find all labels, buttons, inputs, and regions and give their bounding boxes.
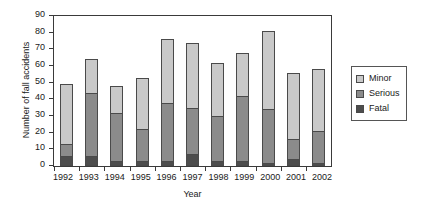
y-tick-label: 70 (35, 42, 45, 53)
bar-slot-2002 (306, 16, 331, 166)
x-tick-mark (155, 167, 156, 171)
bar-segment-serious-1992[interactable] (60, 144, 73, 156)
bar-segment-fatal-2000[interactable] (262, 163, 275, 166)
bar-series-container (54, 16, 331, 166)
bar-segment-minor-1995[interactable] (136, 78, 149, 130)
x-tick-mark (230, 167, 231, 171)
x-tick-mark (130, 167, 131, 171)
bar-segment-minor-2001[interactable] (287, 73, 300, 140)
y-axis-ticks: 0102030405060708090 (0, 15, 53, 167)
bar-segment-serious-2001[interactable] (287, 139, 300, 159)
bar-slot-1994 (104, 16, 129, 166)
x-axis-label-1998: 1998 (205, 172, 231, 183)
x-tick-mark (205, 167, 206, 171)
bar-slot-2001 (281, 16, 306, 166)
stacked-bar-1993[interactable] (85, 59, 98, 166)
x-axis-label-1999: 1999 (231, 172, 257, 183)
bar-segment-fatal-1992[interactable] (60, 156, 73, 166)
x-axis-label-1995: 1995 (128, 172, 154, 183)
y-tick-label: 40 (35, 92, 45, 103)
bar-slot-1999 (230, 16, 255, 166)
legend-item-serious[interactable]: Serious (356, 86, 400, 101)
bar-slot-1992 (54, 16, 79, 166)
x-axis-label-1997: 1997 (180, 172, 206, 183)
x-axis-label-1992: 1992 (50, 172, 76, 183)
legend-item-minor[interactable]: Minor (356, 71, 400, 86)
bar-segment-serious-1998[interactable] (211, 116, 224, 161)
x-tick-mark (104, 167, 105, 171)
y-tick-label: 90 (35, 9, 45, 20)
y-tick-label: 20 (35, 126, 45, 137)
bar-segment-fatal-1993[interactable] (85, 156, 98, 166)
chart-legend: MinorSeriousFatal (351, 66, 407, 121)
bar-segment-serious-1993[interactable] (85, 93, 98, 156)
bar-segment-minor-1992[interactable] (60, 84, 73, 144)
bar-segment-fatal-1997[interactable] (186, 154, 199, 166)
bar-segment-fatal-1999[interactable] (236, 161, 249, 166)
bar-segment-fatal-2002[interactable] (312, 163, 325, 166)
y-tick-label: 80 (35, 26, 45, 37)
y-tick-label: 30 (35, 109, 45, 120)
legend-swatch-fatal-icon (356, 105, 364, 113)
stacked-bar-1999[interactable] (236, 53, 249, 166)
stacked-bar-1992[interactable] (60, 84, 73, 166)
x-axis-label-1994: 1994 (102, 172, 128, 183)
x-axis-labels: 1992199319941995199619971998199920002001… (50, 172, 335, 183)
legend-label: Fatal (369, 103, 389, 114)
x-tick-mark (306, 167, 307, 171)
stacked-bar-1997[interactable] (186, 43, 199, 166)
y-tick-label: 0 (40, 159, 45, 170)
x-tick-mark (54, 167, 55, 171)
legend-swatch-minor-icon (356, 75, 364, 83)
x-axis-title: Year (53, 189, 332, 199)
stacked-bar-1996[interactable] (161, 39, 174, 166)
legend-label: Minor (369, 73, 392, 84)
stacked-bar-2000[interactable] (262, 31, 275, 166)
stacked-bar-1998[interactable] (211, 63, 224, 166)
bar-segment-serious-1997[interactable] (186, 108, 199, 155)
bar-segment-minor-1998[interactable] (211, 63, 224, 116)
bar-segment-minor-1994[interactable] (110, 86, 123, 113)
bar-segment-serious-1995[interactable] (136, 129, 149, 161)
bar-segment-minor-2000[interactable] (262, 31, 275, 109)
bar-slot-1997 (180, 16, 205, 166)
y-tick-label: 50 (35, 76, 45, 87)
bar-segment-minor-1996[interactable] (161, 39, 174, 102)
bar-segment-serious-2002[interactable] (312, 131, 325, 163)
y-tick-label: 60 (35, 59, 45, 70)
bar-segment-fatal-1995[interactable] (136, 161, 149, 166)
fall-accidents-stacked-bar-chart: Number of fall accidents 010203040506070… (0, 0, 431, 209)
x-axis-label-2000: 2000 (257, 172, 283, 183)
bar-segment-minor-1997[interactable] (186, 43, 199, 108)
bar-segment-fatal-1996[interactable] (161, 161, 174, 166)
bar-segment-serious-1994[interactable] (110, 113, 123, 161)
legend-swatch-serious-icon (356, 90, 364, 98)
bar-slot-1998 (205, 16, 230, 166)
x-axis-label-2001: 2001 (283, 172, 309, 183)
x-axis-label-1993: 1993 (76, 172, 102, 183)
bar-segment-serious-1996[interactable] (161, 103, 174, 161)
bar-segment-minor-2002[interactable] (312, 69, 325, 131)
legend-item-fatal[interactable]: Fatal (356, 101, 400, 116)
legend-label: Serious (369, 88, 400, 99)
x-tick-mark (256, 167, 257, 171)
bar-slot-1995 (130, 16, 155, 166)
bar-segment-fatal-1998[interactable] (211, 161, 224, 166)
x-tick-mark (281, 167, 282, 171)
stacked-bar-2002[interactable] (312, 69, 325, 166)
bar-segment-minor-1999[interactable] (236, 53, 249, 96)
bar-segment-serious-2000[interactable] (262, 109, 275, 162)
bar-slot-2000 (256, 16, 281, 166)
x-tick-mark (79, 167, 80, 171)
stacked-bar-2001[interactable] (287, 73, 300, 166)
stacked-bar-1995[interactable] (136, 78, 149, 166)
bar-segment-minor-1993[interactable] (85, 59, 98, 92)
bar-segment-fatal-2001[interactable] (287, 159, 300, 166)
bar-slot-1996 (155, 16, 180, 166)
stacked-bar-1994[interactable] (110, 86, 123, 166)
x-axis-label-2002: 2002 (309, 172, 335, 183)
bar-segment-serious-1999[interactable] (236, 96, 249, 161)
y-tick-label: 10 (35, 142, 45, 153)
x-axis-label-1996: 1996 (154, 172, 180, 183)
bar-segment-fatal-1994[interactable] (110, 161, 123, 166)
